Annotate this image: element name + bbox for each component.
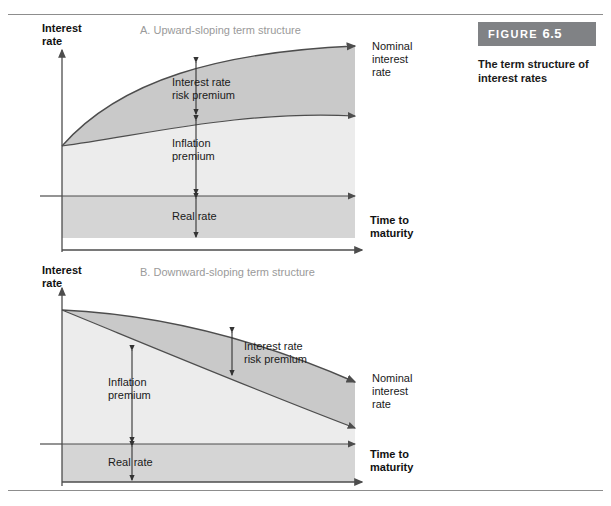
panel-a-inflation-label: Inflation premium	[172, 137, 215, 163]
panel-b-real-rate-label: Real rate	[108, 456, 153, 469]
figure-caption-text: The term structure of interest rates	[478, 57, 596, 85]
panel-a-upward-sloping: Interest rate A. Upward-sloping term str…	[0, 18, 470, 258]
figure-banner-word: FIGURE	[488, 28, 538, 40]
figure-caption-block: FIGURE 6.5 The term structure of interes…	[478, 22, 600, 85]
panel-b-downward-sloping: Interest rate B. Downward-sloping term s…	[0, 262, 470, 490]
figure-page: FIGURE 6.5 The term structure of interes…	[0, 0, 611, 506]
panel-a-real-rate-label: Real rate	[172, 210, 217, 223]
panel-a-risk-premium-label: Interest rate risk premium	[172, 76, 235, 102]
figure-banner-number: 6.5	[542, 26, 562, 41]
panel-b-risk-premium-label: Interest rate risk premium	[244, 340, 307, 366]
panel-b-x-axis-label: Time to maturity	[370, 448, 413, 474]
panel-b-real-rate-band	[62, 444, 355, 482]
panel-a-x-axis-label: Time to maturity	[370, 214, 413, 240]
top-divider-rule	[8, 14, 603, 15]
panel-a-nominal-curve-label: Nominal interest rate	[372, 40, 412, 79]
panel-b-inflation-label: Inflation premium	[108, 376, 151, 402]
panel-b-nominal-curve-label: Nominal interest rate	[372, 372, 412, 411]
figure-number-banner: FIGURE 6.5	[478, 22, 596, 46]
